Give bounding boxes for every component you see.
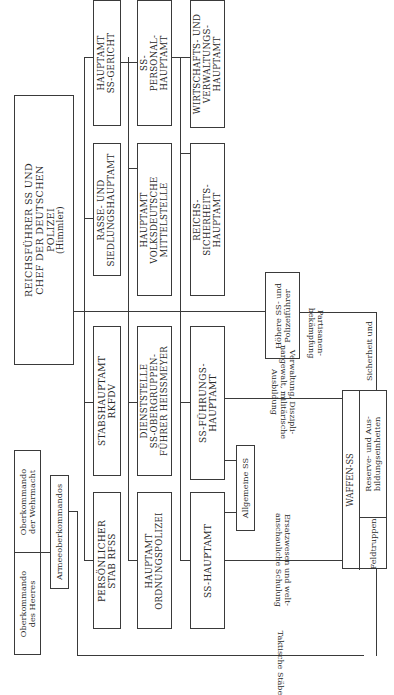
box-reserve-ausbildung: Reserve- und Aus-bildungseinheiten xyxy=(359,390,387,518)
text-line: PERSONAL- xyxy=(150,35,160,92)
conn-okh-armee xyxy=(40,552,50,553)
conn-fha-allgemeine xyxy=(225,460,236,461)
text-line: SICHERHEITS- xyxy=(203,184,213,256)
text-line: Feldtruppen xyxy=(369,518,378,569)
label-verwaltung-ausbildung: Verwaltung, Diszipli-nargewalt, militäri… xyxy=(228,372,338,412)
text-line: HAUPTAMT xyxy=(208,363,218,443)
text-line: MITTELSTELLE xyxy=(159,176,169,263)
text-line: HAUPTAMT xyxy=(145,512,155,610)
rail-col1 xyxy=(84,57,85,560)
conn-rkfdv xyxy=(84,402,93,403)
text-line: SS-HAUPTAMT xyxy=(202,523,212,597)
box-allgemeine-ss: Allgemeine SS xyxy=(236,445,255,531)
box-stabshauptamt-rkfdv: STABSHAUPTAMTRKFDV xyxy=(93,326,121,476)
box-ss-personalhauptamt: SS-PERSONAL-HAUPTAMT xyxy=(137,0,172,126)
text-line: HAUPTAMT xyxy=(140,176,150,263)
text-line: FÜHRER HEISSMEYER xyxy=(159,346,169,456)
text-line: SIEDLUNGSHAUPTAMT xyxy=(107,153,117,266)
label-sicherheit: Sicherheit und xyxy=(364,312,376,390)
conn-vomi xyxy=(128,168,137,169)
text-line: SS-OBERGRUPPEN- xyxy=(150,346,160,456)
conn-personal xyxy=(120,62,137,63)
box-waffen-ss: WAFFEN-SS Reserve- und Aus-bildungseinhe… xyxy=(342,390,387,569)
reichsfuehrer-line2: CHEF DER DEUTSCHEN xyxy=(34,163,45,297)
box-okw: Oberkommandoder Wehrmacht xyxy=(14,450,41,553)
box-hauptamt-ss-gericht: HAUPTAMTSS-GERICHT xyxy=(93,0,121,126)
text-line: SS- xyxy=(140,35,150,92)
text-line: WAFFEN-SS xyxy=(346,453,356,506)
text-line: HAUPTAMT xyxy=(212,184,222,256)
box-dienststelle-heissmeyer: DIENSTSTELLESS-OBERGRUPPEN-FÜHRER HEISSM… xyxy=(137,326,172,476)
text-line: Verwaltung, Diszipli- xyxy=(288,345,297,439)
rail-col2 xyxy=(128,57,129,560)
conn-gericht xyxy=(84,57,93,58)
text-line: HAUPTAMT xyxy=(159,35,169,92)
rail-col3 xyxy=(180,57,181,560)
conn-fha xyxy=(180,402,190,403)
conn-rsha xyxy=(180,153,190,154)
box-volksdeutsche-mittelstelle: HAUPTAMTVOLKSDEUTSCHEMITTELSTELLE xyxy=(137,143,172,296)
text-line: DIENSTSTELLE xyxy=(140,346,150,456)
conn-heissmeyer xyxy=(128,402,137,403)
text-line: Allgemeine SS xyxy=(241,458,250,518)
text-line: STAB RFSS xyxy=(107,519,117,601)
text-line: Partisanen- xyxy=(316,308,325,359)
text-line: RKFDV xyxy=(107,356,117,446)
conn-persstab xyxy=(84,560,93,561)
conn-feld-down xyxy=(376,568,377,656)
box-hauptamt-ordnungspolizei: HAUPTAMTORDNUNGSPOLIZEI xyxy=(137,492,172,629)
text-line: bildungseinheiten xyxy=(373,416,382,491)
text-line: Sicherheit und xyxy=(365,321,374,381)
waffen-ss-label-area: WAFFEN-SS xyxy=(343,391,358,568)
text-line: VOLKSDEUTSCHE xyxy=(150,176,160,263)
text-line: ORDNUNGSPOLIZEI xyxy=(155,512,165,610)
conn-hspf-down xyxy=(376,312,377,390)
text-line: anschauliche Schulung xyxy=(274,513,283,607)
conn-orpo xyxy=(128,560,137,561)
label-ersatzwesen: Ersatzwesen und welt-anschauliche Schulu… xyxy=(228,540,338,580)
text-line: Ersatzwesen und welt- xyxy=(283,513,292,607)
text-line: des Heeres xyxy=(28,570,37,636)
box-ss-fuehrungshauptamt: SS-FÜHRUNGS-HAUPTAMT xyxy=(190,326,225,480)
box-armeeoberkommandos: Armeeoberkommandos xyxy=(50,475,69,589)
box-rasse-siedlungshauptamt: RASSE- UNDSIEDLUNGSHAUPTAMT xyxy=(93,143,121,276)
box-ss-hauptamt: SS-HAUPTAMT xyxy=(190,492,225,629)
conn-ssha xyxy=(180,560,190,561)
text-line: Ausbildung xyxy=(269,345,278,439)
text-line: REICHS- xyxy=(193,184,203,256)
text-line: HAUPTAMT xyxy=(212,14,222,114)
conn-armee-right xyxy=(68,511,77,512)
box-reichssicherheitshauptamt: REICHS-SICHERHEITS-HAUPTAMT xyxy=(190,143,225,296)
text-line: WIRTSCHAFTS- UND xyxy=(193,14,203,114)
label-taktische-staebe: Taktische Stäbe xyxy=(230,655,330,671)
box-persoenlicher-stab: PERSÖNLICHERSTAB RFSS xyxy=(93,492,121,629)
conn-armee-down xyxy=(77,511,78,655)
text-line: SS-FÜHRUNGS- xyxy=(197,363,207,443)
text-line: nargewalt, militärische xyxy=(278,345,287,439)
connector-top-to-hspf xyxy=(74,311,265,312)
text-line: Taktische Stäbe xyxy=(275,631,284,695)
conn-wvha xyxy=(172,57,190,58)
conn-ssha-allgemeine xyxy=(225,512,236,513)
box-okh: Oberkommandodes Heeres xyxy=(14,552,41,655)
text-line: der Wehrmacht xyxy=(28,468,37,534)
text-line: Armeeoberkommandos xyxy=(55,484,64,580)
text-line: PERSÖNLICHER xyxy=(97,519,107,601)
feldtruppen-area: Feldtruppen xyxy=(359,518,387,570)
text-line: bekämpfung xyxy=(307,308,316,359)
text-line: SS-GERICHT xyxy=(107,33,117,94)
reichsfuehrer-name: (Himmler) xyxy=(56,163,66,297)
reichsfuehrer-box: REICHSFÜHRER SS UND CHEF DER DEUTSCHEN P… xyxy=(14,95,74,365)
conn-rusha xyxy=(84,218,93,219)
box-wirtschafts-verwaltungshauptamt: WIRTSCHAFTS- UNDVERWALTUNGS-HAUPTAMT xyxy=(190,0,225,128)
text-line: STABSHAUPTAMT xyxy=(97,356,107,446)
text-line: VERWALTUNGS- xyxy=(203,14,213,114)
label-partisanenbekaempfung: Partisanen-bekämpfung xyxy=(303,300,329,366)
text-line: Polizeiführer xyxy=(283,282,292,348)
reichsfuehrer-line1: REICHSFÜHRER SS UND xyxy=(23,163,34,297)
